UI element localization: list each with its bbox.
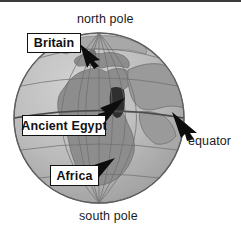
- ancient-egypt-label-box: Ancient Egypt: [22, 115, 106, 136]
- asia-landmass: [127, 64, 184, 110]
- south-pole-label: south pole: [79, 209, 138, 223]
- north-pole-label: north pole: [77, 12, 134, 26]
- globe-diagram-figure: north pole south pole equator Britain An…: [0, 0, 241, 235]
- africa-label-box: Africa: [50, 165, 99, 186]
- britain-label-box: Britain: [27, 33, 81, 53]
- equator-label: equator: [188, 134, 231, 148]
